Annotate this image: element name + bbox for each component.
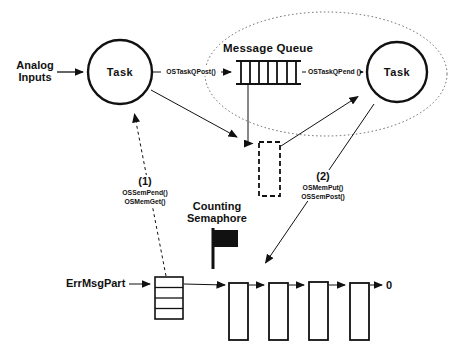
- memory-partition-block: [155, 277, 183, 319]
- counting-semaphore-line2: Semaphore: [175, 212, 259, 224]
- free-list-block-2: [269, 283, 288, 340]
- counting-semaphore-label: Counting Semaphore: [175, 200, 259, 224]
- ostaskqpend-label: OSTaskQPend (): [306, 67, 360, 76]
- step1-call-osmemget: OSMemGet(): [115, 197, 175, 206]
- memory-block-dashed-rect: [259, 142, 280, 196]
- task-left-label: Task: [88, 66, 152, 78]
- step1-label: (1) OSSemPend() OSMemGet(): [113, 175, 177, 206]
- task-right-label: Task: [365, 66, 429, 78]
- message-queue-icon: [236, 61, 301, 84]
- null-terminator-label: 0: [386, 279, 392, 291]
- flag-icon: [212, 228, 239, 269]
- analog-inputs-line1: Analog: [6, 59, 64, 71]
- step1-number: (1): [115, 175, 175, 188]
- message-queue-title: Message Queue: [223, 42, 309, 54]
- diagram-canvas: Analog Inputs Task Task Message Queue OS…: [0, 0, 462, 360]
- analog-inputs-line2: Inputs: [6, 71, 64, 83]
- step1-call-ossempend: OSSemPend(): [115, 188, 175, 197]
- free-list-block-3: [309, 282, 328, 340]
- step2-call-ossempost: OSSemPost(): [293, 192, 353, 201]
- arrow-memory-block-to-task-right: [281, 97, 358, 147]
- step2-call-osmemput: OSMemPut(): [293, 183, 353, 192]
- arrow-queue-to-memory-block: [248, 85, 253, 144]
- free-list-block-4: [350, 283, 369, 340]
- free-list-block-1: [229, 283, 248, 340]
- arrow-task-left-to-memory-block: [151, 90, 237, 137]
- step2-label: (2) OSMemPut() OSSemPost(): [291, 170, 355, 201]
- step2-number: (2): [293, 170, 353, 183]
- diagram-shapes-layer: [0, 0, 462, 360]
- arrow-partition-to-block1: [184, 284, 225, 285]
- analog-inputs-label: Analog Inputs: [6, 59, 64, 83]
- counting-semaphore-line1: Counting: [175, 200, 259, 212]
- ostaskqpost-label: OSTaskQPost(): [161, 67, 221, 76]
- errmsgpart-label: ErrMsgPart: [66, 277, 125, 289]
